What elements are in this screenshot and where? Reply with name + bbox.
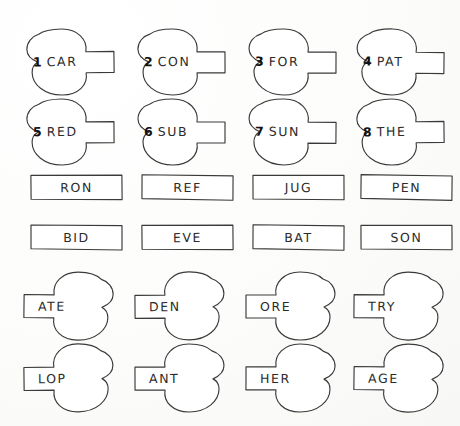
puzzle-outline [138,99,225,165]
middle-piece-son[interactable]: SON [360,224,453,251]
middle-piece-eve[interactable]: EVE [141,224,234,252]
puzzle-outline [27,99,115,166]
prefix-piece-sun[interactable]: 7SUN [238,95,339,168]
suffix-piece-lop[interactable]: LOP [12,339,125,416]
suffix-piece-age[interactable]: AGE [342,339,455,416]
rect-outline [361,225,452,250]
puzzle-outline [135,344,224,412]
rect-outline [142,175,233,200]
puzzle-outline [27,28,115,95]
prefix-piece-pat[interactable]: 4PAT [346,24,447,97]
puzzle-outline [354,272,444,341]
puzzle-outline [249,99,337,166]
rect-outline [31,225,122,250]
rect-outline [361,175,452,201]
puzzle-outline [357,98,445,165]
suffix-piece-her[interactable]: HER [234,340,346,416]
puzzle-outline [138,29,225,95]
prefix-piece-for[interactable]: 3FOR [238,25,338,97]
prefix-piece-car[interactable]: 1CAR [16,24,117,97]
puzzle-outline [24,271,114,340]
puzzle-outline [354,343,444,412]
puzzle-outline [249,29,336,95]
suffix-piece-ore[interactable]: ORE [234,268,346,344]
middle-piece-bid[interactable]: BID [30,224,123,251]
middle-piece-bat[interactable]: BAT [252,224,345,251]
rect-outline [253,175,344,200]
middle-piece-ref[interactable]: REF [141,174,234,201]
middle-piece-pen[interactable]: PEN [360,174,453,202]
rect-outline [253,225,344,250]
rect-outline [142,225,233,251]
prefix-piece-red[interactable]: 5RED [16,95,117,168]
suffix-piece-try[interactable]: TRY [342,268,455,345]
prefix-piece-the[interactable]: 8THE [346,94,447,167]
suffix-piece-den[interactable]: DEN [123,268,236,345]
puzzle-outline [135,272,225,341]
puzzle-outline [24,343,114,412]
prefix-piece-con[interactable]: 2CON [127,25,227,97]
puzzle-outline [246,344,335,412]
middle-piece-ron[interactable]: RON [30,174,123,202]
puzzle-outline [246,272,335,340]
prefix-piece-sub[interactable]: 6SUB [127,95,227,167]
puzzle-outline [357,29,445,96]
rect-outline [31,175,122,201]
middle-piece-jug[interactable]: JUG [252,174,345,201]
suffix-piece-ant[interactable]: ANT [123,340,235,416]
suffix-piece-ate[interactable]: ATE [12,267,125,344]
